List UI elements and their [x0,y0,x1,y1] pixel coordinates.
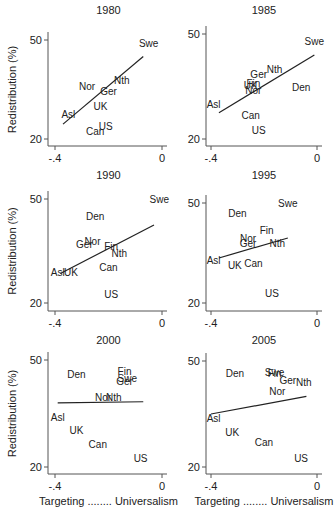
y-tick-label: 50 [188,197,200,209]
figure: 19805020-.40SweNthNorGerUKAslUSCanRedist… [0,0,334,516]
country-label-uk: UK [69,425,83,436]
panel-1990: 19905020-.40SweDenNorGerFinNthCanAslUKUS… [6,169,169,329]
country-label-nor: Nor [269,386,286,397]
x-axis-label: Targeting ........ Universalism [195,495,334,507]
panel-title: 2000 [96,334,120,346]
country-label-can: Can [86,126,104,137]
country-label-ger: Ger [280,375,297,386]
country-label-nth: Nth [267,64,283,75]
x-tick-label: 0 [314,480,320,492]
country-label-den: Den [228,208,246,219]
country-label-fin: Fin [260,225,274,236]
country-label-nth: Nth [111,248,127,259]
fit-line [211,396,306,414]
country-label-ger: Ger [76,239,93,250]
country-label-uk: UK [94,101,108,112]
x-tick-label: -.4 [205,480,218,492]
panel-1985: 19855020-.40SweNthGerFinUKDenNorAslCanUS [188,4,325,164]
country-label-uk: UK [64,267,78,278]
country-label-nor: Nor [245,85,262,96]
panel-1980: 19805020-.40SweNthNorGerUKAslUSCanRedist… [6,4,167,164]
y-tick-label: 50 [188,28,200,40]
y-tick-label: 20 [188,297,200,309]
panel-1995: 19955020-.40SweDenFinNorGerNthAslUKCanUS [188,169,322,329]
x-tick-label: -.4 [49,480,62,492]
panel-title: 1985 [252,4,276,16]
x-tick-label: 0 [314,317,320,329]
y-axis-label: Redistribution (%) [6,370,18,457]
y-tick-label: 20 [30,297,42,309]
country-label-asl: Asl [207,255,221,266]
country-label-asl: Asl [61,109,75,120]
country-label-ger: Ger [116,376,133,387]
country-label-us: US [252,125,266,136]
country-label-us: US [294,453,308,464]
x-axis-label: Targeting ........ Universalism [39,495,178,507]
x-tick-label: 0 [314,152,320,164]
x-tick-label: -.4 [205,152,218,164]
country-label-asl: Asl [51,267,65,278]
y-tick-label: 50 [30,193,42,205]
x-tick-label: 0 [159,480,165,492]
y-axis-label: Redistribution (%) [6,207,18,294]
y-tick-label: 50 [188,355,200,367]
y-tick-label: 50 [30,354,42,366]
country-label-den: Den [86,211,104,222]
country-label-asl: Asl [51,412,65,423]
country-label-nth: Nth [106,392,122,403]
country-label-swe: Swe [139,38,159,49]
country-label-us: US [104,289,118,300]
x-tick-label: 0 [159,317,165,329]
country-label-can: Can [89,439,107,450]
country-label-us: US [265,288,279,299]
country-label-can: Can [255,437,273,448]
y-axis-label: Redistribution (%) [6,46,18,133]
country-label-can: Can [242,110,260,121]
country-label-den: Den [226,368,244,379]
country-label-den: Den [292,82,310,93]
panel-title: 2005 [252,334,276,346]
x-tick-label: -.4 [49,152,62,164]
y-tick-label: 20 [188,133,200,145]
panel-title: 1995 [252,169,276,181]
y-tick-label: 50 [30,34,42,46]
country-label-nth: Nth [296,377,312,388]
panel-title: 1990 [96,169,120,181]
country-label-uk: UK [225,427,239,438]
country-label-nth: Nth [114,75,130,86]
country-label-ger: Ger [100,86,117,97]
country-label-swe: Swe [150,194,170,205]
country-label-asl: Asl [207,413,221,424]
country-label-nor: Nor [79,81,96,92]
x-tick-label: -.4 [205,317,218,329]
country-label-nth: Nth [269,238,285,249]
country-label-den: Den [67,369,85,380]
panel-2005: 20055020-.40SweFinDenGerNthNorAslUKCanUS… [188,334,334,507]
panel-title: 1980 [96,4,120,16]
country-label-ger: Ger [240,238,257,249]
country-label-swe: Swe [305,36,325,47]
country-label-uk: UK [228,260,242,271]
country-label-can: Can [244,258,262,269]
country-label-us: US [134,453,148,464]
x-tick-label: 0 [159,152,165,164]
y-tick-label: 20 [30,461,42,473]
x-tick-label: -.4 [49,317,62,329]
country-label-can: Can [99,262,117,273]
country-label-asl: Asl [207,99,221,110]
panel-2000: 20005020-.40FinDenSweGerNorNthAslUKCanUS… [6,334,178,507]
country-label-swe: Swe [278,198,298,209]
y-tick-label: 20 [188,461,200,473]
y-tick-label: 20 [30,133,42,145]
